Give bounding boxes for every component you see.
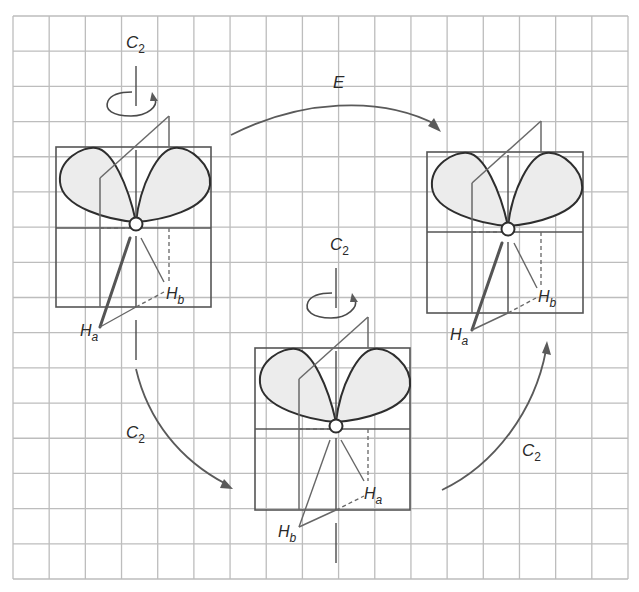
oxygen-atom xyxy=(130,218,143,231)
rotation-icon xyxy=(107,92,155,116)
hydrogen-label-back: Hb xyxy=(166,285,185,307)
molecule-after-e: Ha Hb xyxy=(427,121,583,348)
bond-back-h xyxy=(341,440,364,481)
c2-axis-label: C2 xyxy=(330,235,349,258)
c2-up-arrow xyxy=(442,350,546,490)
c2-down-arrow xyxy=(136,369,226,484)
arrowhead-icon xyxy=(220,479,233,489)
identity-label: E xyxy=(333,73,345,92)
identity-arrow xyxy=(231,105,437,135)
lone-pair-lobe-left xyxy=(432,153,508,226)
molecule-after-c2: C2 Hb Ha xyxy=(255,235,410,563)
hydrogen-label-back: Hb xyxy=(538,288,557,310)
operation-c2-up: C2 xyxy=(442,341,551,490)
hydrogen-label-front: Ha xyxy=(80,322,99,344)
hydrogen-label-front: Ha xyxy=(450,326,469,348)
projection-dash xyxy=(508,298,536,313)
bond-back-h xyxy=(141,238,164,282)
operation-identity: E xyxy=(231,73,441,135)
oxygen-atom xyxy=(502,223,515,236)
c2-axis-label: C2 xyxy=(126,33,145,56)
projection-dash xyxy=(336,496,364,510)
arrowhead-icon xyxy=(428,118,441,132)
symmetry-diagram: C2 Ha Hb Ha Hb xyxy=(0,0,639,592)
rotation-icon xyxy=(307,293,355,318)
lone-pair-lobe-left xyxy=(260,349,336,422)
c2-up-label: C2 xyxy=(522,441,541,464)
hydrogen-label-front: Hb xyxy=(278,523,297,545)
molecule-initial: C2 Ha Hb xyxy=(56,33,211,360)
lone-pair-lobe-left xyxy=(60,148,136,222)
grid-background xyxy=(13,16,628,579)
rotation-arrowhead-icon xyxy=(150,92,158,101)
c2-down-label: C2 xyxy=(126,423,145,446)
hydrogen-label-back: Ha xyxy=(364,485,383,507)
lone-pair-lobe-right xyxy=(336,349,410,422)
arrowhead-icon xyxy=(542,341,551,355)
bond-front-h xyxy=(100,238,130,327)
lone-pair-lobe-right xyxy=(136,148,210,222)
operation-c2-down: C2 xyxy=(126,369,233,489)
bond-front-h xyxy=(472,243,502,330)
projection-dash xyxy=(136,292,164,307)
bond-front-h xyxy=(299,440,330,527)
bond-back-h xyxy=(514,243,537,288)
oxygen-atom xyxy=(330,420,343,433)
